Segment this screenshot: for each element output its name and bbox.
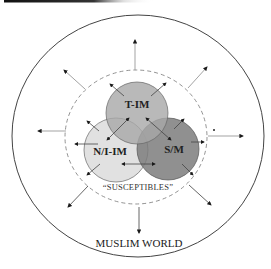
dot-marker xyxy=(213,129,215,131)
label-muslim-world: MUSLIM WORLD xyxy=(96,237,183,249)
label-t-im: T-IM xyxy=(125,98,150,110)
label-n-i-im: N/I-IM xyxy=(93,145,127,157)
arrow-down-right xyxy=(189,185,211,205)
venn-diagram xyxy=(84,82,199,182)
label-s-m: S/M xyxy=(164,143,184,155)
arrow-down-left xyxy=(68,186,88,207)
venn-circle-t-im xyxy=(106,82,168,144)
top-rule xyxy=(4,0,204,3)
arrow-up-right xyxy=(188,67,207,88)
label-susceptibles: “SUSCEPTIBLES” xyxy=(103,182,173,192)
arrow-up-left xyxy=(64,70,85,89)
diagram-canvas: T-IM N/I-IM S/M “SUSCEPTIBLES” MUSLIM WO… xyxy=(0,0,271,269)
